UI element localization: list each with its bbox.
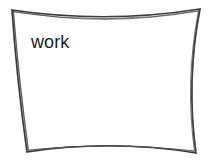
box-label: work xyxy=(31,33,69,52)
box-outline-primary-path xyxy=(12,9,200,153)
diagram-canvas: work xyxy=(0,0,212,166)
sketch-box-shape[interactable] xyxy=(0,0,212,166)
